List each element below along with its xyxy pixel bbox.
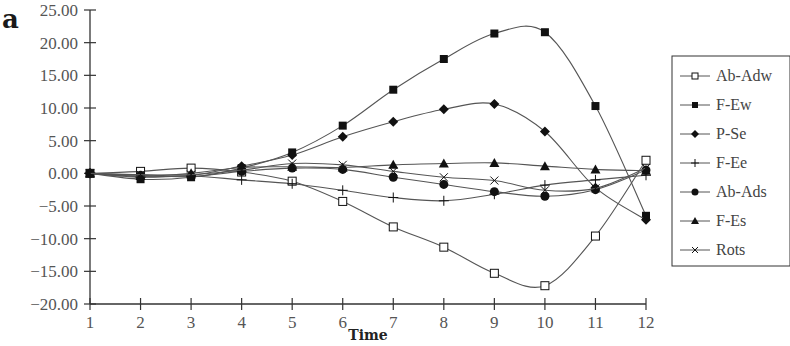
plus-marker-icon (590, 175, 600, 185)
y-tick-label: 5.00 (48, 132, 78, 151)
series-f-ee (85, 168, 651, 205)
legend: Ab-AdwF-EwP-SeF-EeAb-AdsF-EsRots (672, 56, 790, 266)
x-tick-label: 3 (187, 313, 196, 332)
series-lines (85, 26, 651, 290)
x-tick-label: 2 (136, 313, 145, 332)
plus-marker-icon (540, 180, 550, 190)
legend-label: F-Ew (716, 96, 752, 113)
open-square-marker-icon (389, 223, 397, 231)
open-square-marker-icon (692, 73, 698, 79)
open-square-marker-icon (591, 232, 599, 240)
legend-label: Rots (716, 241, 745, 258)
filled-square-marker-icon (440, 55, 448, 63)
open-square-marker-icon (440, 243, 448, 251)
filled-square-marker-icon (692, 102, 698, 108)
diamond-marker-icon (338, 132, 348, 142)
series-line (90, 26, 646, 216)
open-square-marker-icon (339, 197, 347, 205)
diamond-marker-icon (489, 99, 499, 109)
open-square-marker-icon (642, 156, 650, 164)
x-tick-label: 7 (389, 313, 398, 332)
x-tick-label: 12 (638, 313, 655, 332)
y-tick-label: 25.00 (40, 1, 78, 20)
series-p-se (85, 99, 651, 225)
legend-label: Ab-Ads (716, 183, 767, 200)
y-tick-label: 0.00 (48, 164, 78, 183)
filled-square-marker-icon (541, 28, 549, 36)
plus-marker-icon (338, 185, 348, 195)
series-line (90, 160, 646, 287)
circle-marker-icon (591, 185, 600, 194)
circle-marker-icon (439, 180, 448, 189)
plus-marker-icon (439, 196, 449, 206)
circle-marker-icon (490, 187, 499, 196)
series-line (90, 173, 646, 201)
diamond-marker-icon (388, 117, 398, 127)
filled-square-marker-icon (591, 102, 599, 110)
y-tick-label: −10.00 (30, 230, 78, 249)
legend-label: P-Se (716, 125, 746, 142)
x-tick-label: 5 (288, 313, 297, 332)
y-tick-label: −15.00 (30, 262, 78, 281)
x-tick-label: 4 (237, 313, 246, 332)
filled-square-marker-icon (490, 30, 498, 38)
open-square-marker-icon (541, 282, 549, 290)
filled-square-marker-icon (389, 86, 397, 94)
y-tick-label: −20.00 (30, 295, 78, 314)
y-tick-label: 20.00 (40, 34, 78, 53)
x-tick-label: 1 (86, 313, 95, 332)
open-square-marker-icon (490, 269, 498, 277)
series-line (90, 103, 646, 220)
diamond-marker-icon (439, 104, 449, 114)
x-tick-label: 6 (338, 313, 347, 332)
legend-label: Ab-Adw (716, 67, 772, 84)
legend-label: F-Es (716, 212, 746, 229)
series-line (90, 168, 646, 196)
circle-marker-icon (692, 189, 699, 196)
filled-square-marker-icon (339, 122, 347, 130)
y-tick-label: −5.00 (39, 197, 78, 216)
x-tick-label: 8 (440, 313, 449, 332)
y-tick-label: 15.00 (40, 66, 78, 85)
x-tick-label: 11 (587, 313, 603, 332)
x-tick-label: 9 (490, 313, 499, 332)
x-tick-label: 10 (536, 313, 553, 332)
line-chart: 25.0020.0015.0010.005.000.00−5.00−10.00−… (0, 0, 790, 346)
y-tick-label: 10.00 (40, 99, 78, 118)
legend-label: F-Ee (716, 154, 747, 171)
plus-marker-icon (388, 193, 398, 203)
x-axis-label: Time (348, 327, 388, 343)
